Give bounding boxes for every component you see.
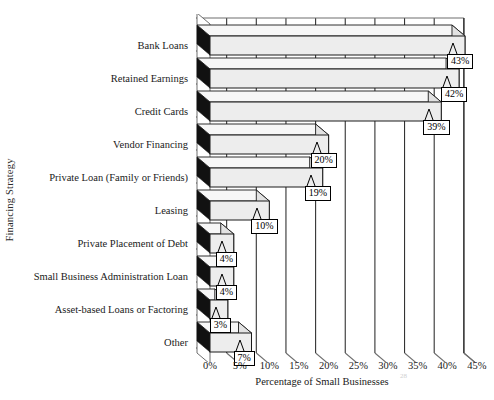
y-axis-tick-label: Private Placement of Debt	[0, 238, 188, 250]
data-label: 42%	[441, 87, 467, 102]
data-label: 39%	[423, 120, 449, 135]
y-axis-tick-label: Asset-based Loans or Factoring	[0, 304, 188, 316]
y-axis-tick-label: Small Business Administration Loan	[0, 271, 188, 283]
y-axis-tick-label: Bank Loans	[0, 40, 188, 52]
y-axis-tick-label: Leasing	[0, 205, 188, 217]
data-label: 10%	[251, 219, 277, 234]
y-axis-tick-label: Private Loan (Family or Friends)	[0, 172, 188, 184]
y-axis-tick-label: Credit Cards	[0, 106, 188, 118]
data-label: 20%	[311, 153, 337, 168]
scan-artifact: 28	[400, 372, 407, 380]
data-label: 19%	[305, 186, 331, 201]
data-label: 4%	[216, 285, 237, 300]
y-axis-tick-label: Retained Earnings	[0, 73, 188, 85]
x-axis-tick-label: 45%	[457, 360, 494, 371]
x-axis-title: Percentage of Small Businesses	[150, 376, 494, 387]
data-label: 43%	[447, 54, 473, 69]
data-labels: 43%42%39%20%19%10%4%4%3%7%	[196, 14, 494, 362]
y-axis-tick-label: Vendor Financing	[0, 139, 188, 151]
bar-chart: Financing Strategy Bank LoansRetained Ea…	[0, 0, 494, 400]
y-axis-tick-label: Other	[0, 337, 188, 349]
data-label: 4%	[216, 252, 237, 267]
y-axis-tick-labels: Bank LoansRetained EarningsCredit CardsV…	[0, 0, 192, 400]
data-label: 3%	[210, 318, 231, 333]
